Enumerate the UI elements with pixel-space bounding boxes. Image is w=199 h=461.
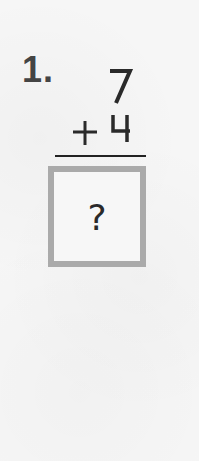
answer-placeholder: ?	[87, 200, 106, 236]
addend-top-glyph	[108, 68, 134, 106]
plus-sign-glyph	[72, 120, 98, 146]
addend-bottom-glyph	[110, 114, 132, 144]
answer-line	[55, 155, 146, 157]
problem-number: 1.	[22, 52, 54, 88]
answer-box[interactable]: ?	[48, 166, 146, 267]
